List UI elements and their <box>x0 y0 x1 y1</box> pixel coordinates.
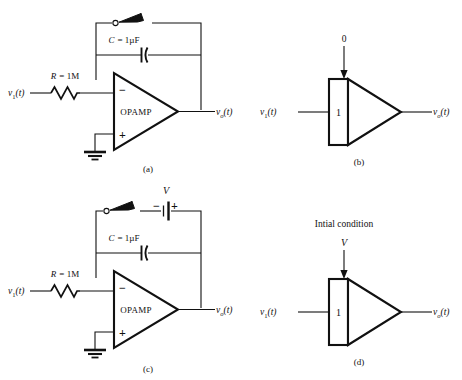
inverting-input-sign: − <box>119 83 126 97</box>
panel-b-schematic: 0 1 v1(t) vo(t) (b) <box>240 0 462 180</box>
panel-a-schematic: C= 1µF R= 1M v1(t) OPAMP − + <box>0 0 240 180</box>
panel-a-input-label: v1(t) <box>8 88 24 100</box>
panel-a-caption: (a) <box>143 164 153 174</box>
ground-wire <box>95 134 114 151</box>
panel-d-ic-value: V <box>341 237 349 248</box>
panel-c-schematic: V − + C= 1µF R= 1M v1(t) <box>0 180 240 380</box>
capacitor-icon <box>142 246 148 261</box>
panel-a-opamp-integrator: C= 1µF R= 1M v1(t) OPAMP − + <box>0 0 240 180</box>
battery-plus-sign: + <box>171 199 178 213</box>
panel-b-ic-value: 0 <box>342 34 347 44</box>
switch-open-icon[interactable] <box>104 202 135 214</box>
noninverting-input-sign: + <box>119 326 126 340</box>
panel-c-opamp-integrator-with-battery: V − + C= 1µF R= 1M v1(t) <box>0 180 240 380</box>
panel-a-output-label: vo(t) <box>216 107 232 119</box>
gain-label: 1 <box>336 107 341 118</box>
noninverting-input-sign: + <box>119 128 126 142</box>
ground-wire <box>95 332 114 349</box>
opamp-label: OPAMP <box>120 305 152 315</box>
panel-d-input-label: v1(t) <box>260 307 276 319</box>
resistor-icon <box>51 285 80 297</box>
ic-arrow-icon <box>340 46 347 79</box>
battery-icon <box>164 202 169 221</box>
panel-b-caption: (b) <box>354 157 365 167</box>
panel-d-output-label: vo(t) <box>433 307 449 319</box>
panel-b-output-label: vo(t) <box>433 107 449 119</box>
inverting-input-sign: − <box>119 281 126 295</box>
capacitor-label: C= 1µF <box>108 233 139 243</box>
capacitor-label: C= 1µF <box>108 35 139 45</box>
ground-icon <box>84 152 106 160</box>
resistor-label: R= 1M <box>50 269 79 279</box>
panel-c-caption: (c) <box>143 364 153 374</box>
capacitor-icon <box>142 48 148 63</box>
panel-c-input-label: v1(t) <box>8 286 24 298</box>
gain-label: 1 <box>336 307 341 318</box>
panel-b-integrator-block: 0 1 v1(t) vo(t) (b) <box>240 0 462 180</box>
ic-arrow-icon <box>340 250 347 279</box>
panel-c-output-label: vo(t) <box>216 305 232 317</box>
panel-d-schematic: Intial condition V 1 v1(t) vo(t) (d) <box>240 180 462 380</box>
battery-minus-sign: − <box>153 199 160 213</box>
ground-icon <box>84 350 106 358</box>
opamp-label: OPAMP <box>120 107 152 117</box>
panel-d-integrator-block-with-ic: Intial condition V 1 v1(t) vo(t) (d) <box>240 180 462 380</box>
resistor-label: R= 1M <box>50 71 79 81</box>
battery-voltage-label: V <box>163 185 171 196</box>
panel-d-ic-title: Intial condition <box>315 219 374 229</box>
switch-open-icon[interactable] <box>113 14 144 26</box>
panel-d-caption: (d) <box>354 357 365 367</box>
resistor-icon <box>51 87 80 99</box>
panel-b-input-label: v1(t) <box>260 107 276 119</box>
